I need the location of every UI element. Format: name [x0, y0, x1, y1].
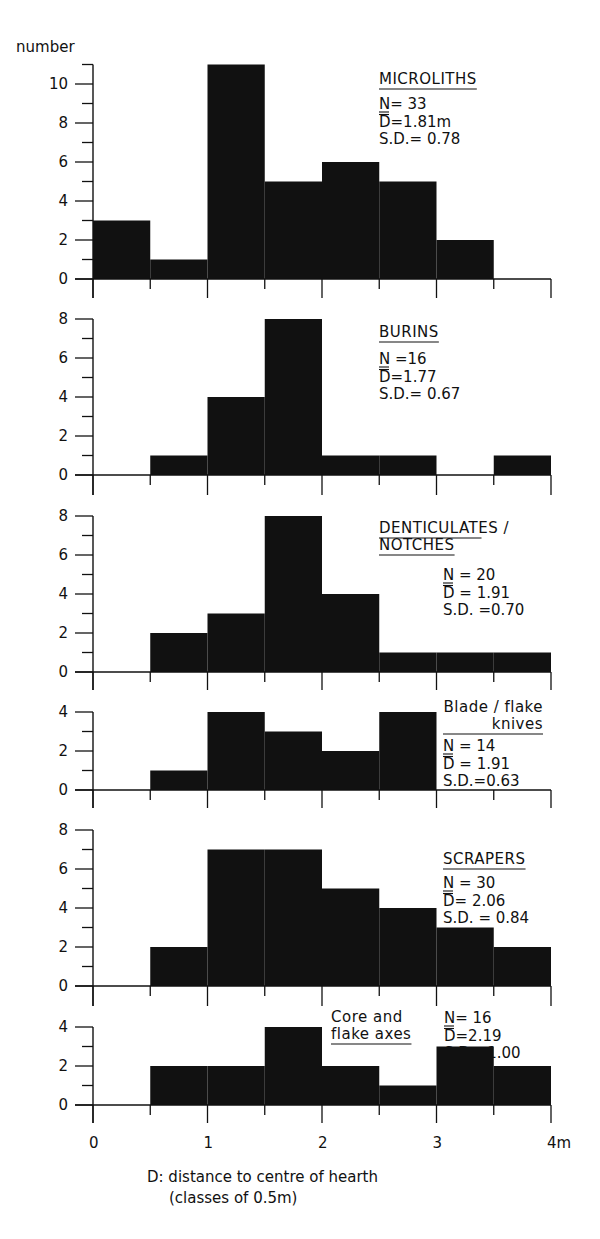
panel-scrapers: 02468SCRAPERSN = 30D= 2.06S.D. = 0.84 [58, 821, 551, 1006]
histogram-bar [322, 594, 379, 672]
histogram-bar [379, 182, 436, 280]
histogram-bar [265, 182, 322, 280]
stat-n: N = 20 [443, 566, 495, 584]
histogram-bar [494, 653, 551, 673]
histogram-stack-svg: number 0246810MICROLITHSN= 33D=1.81mS.D.… [0, 0, 600, 1239]
histogram-bar [379, 1086, 436, 1106]
histogram-bar [322, 751, 379, 790]
histogram-bar [437, 928, 494, 987]
panel-blade-flake-knives: 024Blade / flakeknivesN = 14D = 1.91S.D.… [58, 698, 551, 808]
y-tick-label: 0 [58, 977, 68, 995]
y-tick-label: 0 [58, 270, 68, 288]
histogram-bar [379, 712, 436, 790]
histogram-bar [494, 947, 551, 986]
histogram-bar [265, 732, 322, 791]
y-tick-label: 2 [58, 427, 68, 445]
histogram-figure: number 0246810MICROLITHSN= 33D=1.81mS.D.… [0, 0, 600, 1239]
histogram-bar [208, 1066, 265, 1105]
y-tick-label: 2 [58, 1057, 68, 1075]
y-tick-label: 6 [58, 860, 68, 878]
y-tick-label: 0 [58, 1096, 68, 1114]
histogram-bar [208, 850, 265, 987]
histogram-bar [265, 516, 322, 672]
stat-n: N= 33 [379, 95, 427, 113]
histogram-bar [379, 456, 436, 476]
stat-n: N= 16 [444, 1009, 492, 1027]
stat-sd: S.D. =0.70 [443, 601, 524, 619]
y-tick-label: 2 [58, 231, 68, 249]
histogram-bar [265, 850, 322, 987]
histogram-bar [322, 456, 379, 476]
stat-sd: S.D.= 0.78 [379, 130, 460, 148]
x-tick-label: 2 [318, 1134, 328, 1152]
histogram-bar [208, 712, 265, 790]
histogram-bar [208, 65, 265, 280]
panel-title-line: SCRAPERS [443, 850, 526, 868]
y-tick-label: 4 [58, 192, 68, 210]
y-tick-label: 2 [58, 742, 68, 760]
histogram-bar [150, 260, 207, 280]
histogram-bar [322, 162, 379, 279]
panel-title-line: Blade / flake [443, 698, 543, 716]
histogram-bar [208, 397, 265, 475]
panel-title-line: NOTCHES [379, 536, 455, 554]
x-tick-labels: 01234m [89, 1134, 571, 1152]
histogram-bar [494, 456, 551, 476]
stat-d: D= 2.06 [443, 892, 505, 910]
x-tick-label: 1 [204, 1134, 214, 1152]
y-tick-label: 4 [58, 899, 68, 917]
histogram-bar [208, 614, 265, 673]
histogram-bar [150, 947, 207, 986]
y-tick-label: 8 [58, 114, 68, 132]
histogram-bar [150, 633, 207, 672]
y-tick-label: 4 [58, 585, 68, 603]
stat-d: D = 1.91 [443, 584, 510, 602]
panel-core-and-flake-axes: 024Core andflake axesN= 16D=2.19S.D =1.0… [58, 1008, 551, 1123]
stat-n: N = 30 [443, 874, 495, 892]
panels-group: 0246810MICROLITHSN= 33D=1.81mS.D.= 0.780… [49, 65, 551, 1124]
x-axis-caption-line1: D: distance to centre of hearth [147, 1168, 378, 1186]
histogram-bar [322, 1066, 379, 1105]
histogram-bar [379, 908, 436, 986]
stat-sd: S.D.=0.63 [443, 772, 520, 790]
y-tick-label: 2 [58, 938, 68, 956]
histogram-bar [150, 771, 207, 791]
y-tick-label: 0 [58, 466, 68, 484]
panel-title-line: DENTICULATES / [379, 519, 510, 537]
histogram-bar [150, 1066, 207, 1105]
histogram-bar [93, 221, 150, 280]
histogram-bar [437, 240, 494, 279]
y-tick-label: 6 [58, 349, 68, 367]
histogram-bar [494, 1066, 551, 1105]
y-tick-label: 2 [58, 624, 68, 642]
y-tick-label: 0 [58, 781, 68, 799]
y-tick-label: 6 [58, 153, 68, 171]
stat-n: N = 14 [443, 737, 495, 755]
panel-title-line: knives [492, 715, 543, 733]
panel-burins: 02468BURINSN =16D=1.77S.D.= 0.67 [58, 310, 551, 495]
stat-d: D=1.77 [379, 368, 437, 386]
x-tick-label: 0 [89, 1134, 99, 1152]
y-tick-label: 8 [58, 310, 68, 328]
stat-d: D=2.19 [444, 1027, 502, 1045]
y-tick-label: 4 [58, 1018, 68, 1036]
y-tick-label: 0 [58, 663, 68, 681]
panel-title-line: BURINS [379, 323, 439, 341]
stat-sd: S.D =1.00 [444, 1044, 521, 1062]
y-tick-label: 4 [58, 703, 68, 721]
histogram-bar [322, 889, 379, 987]
panel-title-line: MICROLITHS [379, 70, 477, 88]
y-tick-label: 6 [58, 546, 68, 564]
histogram-bar [150, 456, 207, 476]
histogram-bar [265, 1027, 322, 1105]
stat-d: D=1.81m [379, 113, 451, 131]
panel-title-line: flake axes [331, 1025, 411, 1043]
histogram-bar [265, 319, 322, 475]
panel-denticulates-notches: 02468DENTICULATES /NOTCHESN = 20D = 1.91… [58, 507, 551, 690]
stat-sd: S.D. = 0.84 [443, 909, 529, 927]
stat-sd: S.D.= 0.67 [379, 385, 460, 403]
histogram-bar [379, 653, 436, 673]
stat-n: N =16 [379, 350, 427, 368]
x-tick-label: 4m [547, 1134, 571, 1152]
y-axis-label: number [16, 38, 75, 56]
